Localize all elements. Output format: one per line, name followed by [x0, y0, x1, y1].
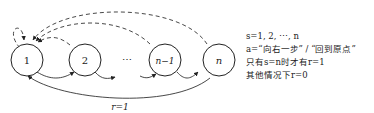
ellipsis-label: ⋯ — [122, 54, 132, 65]
return-edges — [13, 12, 207, 48]
legend: s=1, 2, ⋯, n a=“向右一步” / “回到原点” 只有s=n时才有r… — [246, 30, 356, 82]
legend-reward-otherwise: 其他情况下r=0 — [246, 69, 356, 82]
edge-n-to-1 — [33, 12, 207, 44]
forward-edges — [28, 72, 210, 98]
edge-2-to-1 — [38, 37, 70, 45]
state-n-label: n — [216, 55, 222, 66]
reward-edge-n-to-1 — [28, 76, 210, 98]
reward-label: r=1 — [111, 102, 129, 112]
state-1-label: 1 — [24, 55, 30, 66]
legend-states: s=1, 2, ⋯, n — [246, 30, 356, 43]
edge-n1-to-1 — [36, 23, 150, 44]
state-2-label: 2 — [82, 55, 88, 66]
legend-reward-condition: 只有s=n时才有r=1 — [246, 56, 356, 69]
state-n-minus-1-label: n−1 — [155, 56, 174, 66]
legend-actions: a=“向右一步” / “回到原点” — [246, 43, 356, 56]
